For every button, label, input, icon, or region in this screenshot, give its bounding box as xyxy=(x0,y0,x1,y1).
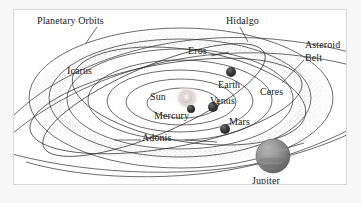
planet-jupiter xyxy=(256,139,290,173)
jupiter-band-1 xyxy=(258,148,288,152)
label-mars: Mars xyxy=(229,117,250,128)
leader-planetary-orbits xyxy=(86,27,97,43)
label-belt: Belt xyxy=(305,53,322,64)
jupiter-band-3 xyxy=(262,164,284,168)
solar-system-diagram xyxy=(14,10,347,185)
sun-core xyxy=(182,93,192,103)
label-icarus: Icarus xyxy=(67,66,92,77)
planet-earth xyxy=(226,67,236,77)
sun-body xyxy=(174,85,200,111)
label-earth: Earth xyxy=(218,80,240,91)
label-sun: Sun xyxy=(150,92,166,103)
label-mercury: Mercury xyxy=(154,111,189,122)
label-eros: Eros xyxy=(188,46,207,57)
label-venus: Venus xyxy=(210,96,235,107)
jupiter-band-2 xyxy=(259,158,287,163)
label-hidalgo: Hidalgo xyxy=(226,16,259,27)
figure-root: Planetary Orbits Hidalgo Asteroid Belt I… xyxy=(0,0,361,203)
label-ceres: Ceres xyxy=(260,87,283,98)
label-jupiter: Jupiter xyxy=(252,176,280,185)
label-planetary-orbits: Planetary Orbits xyxy=(37,16,104,27)
label-adonis: Adonis xyxy=(142,133,172,144)
figure-frame: Planetary Orbits Hidalgo Asteroid Belt I… xyxy=(13,9,347,185)
label-asteroid: Asteroid xyxy=(305,40,340,51)
